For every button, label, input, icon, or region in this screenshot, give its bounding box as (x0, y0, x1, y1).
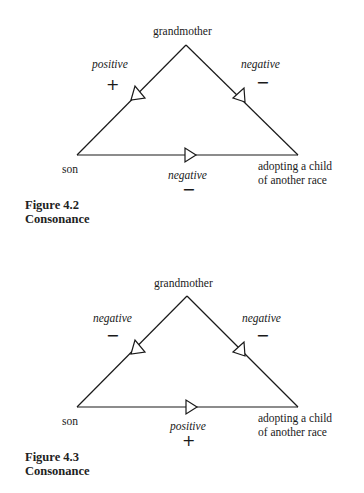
edge-right-label: negative (242, 312, 281, 325)
figure-4-2: grandmother positive + negative − son ne… (0, 0, 364, 252)
edge-right-sign: − (256, 328, 269, 344)
edge-left-sign: − (106, 328, 119, 344)
arrow-bottom-edge-icon (186, 400, 197, 414)
node-right-label-line2: of another race (258, 426, 327, 439)
figure-title: Consonance (25, 464, 90, 478)
node-right-label-line1: adopting a child (258, 412, 332, 425)
node-left-label: son (62, 415, 78, 428)
edge-right-sign: − (256, 75, 269, 91)
node-left-label: son (62, 163, 78, 176)
arrow-left-edge-icon (131, 340, 145, 354)
edge-right-label: negative (241, 58, 280, 71)
edge-bottom-sign: − (182, 182, 195, 198)
node-right-label-line2: of another race (258, 174, 327, 187)
figure-number: Figure 4.2 (25, 198, 79, 212)
figure-title: Consonance (25, 212, 90, 226)
arrow-right-edge-icon (233, 88, 245, 102)
node-top-label: grandmother (153, 25, 212, 38)
edge-left-sign: + (106, 77, 119, 93)
edge-left-label: negative (93, 312, 132, 325)
figure-4-3: grandmother negative − negative − son po… (0, 252, 364, 493)
arrow-bottom-edge-icon (185, 148, 196, 162)
edge-left-label: positive (92, 58, 128, 71)
edge-bottom-sign: + (182, 433, 195, 449)
node-top-label: grandmother (154, 277, 213, 290)
node-right-label-line1: adopting a child (258, 160, 332, 173)
figure-number: Figure 4.3 (25, 450, 79, 464)
